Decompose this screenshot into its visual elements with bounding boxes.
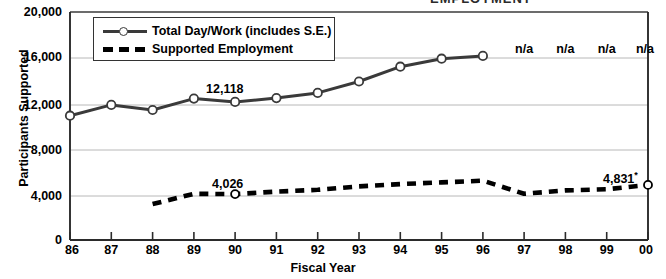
x-tick-91: 91 bbox=[261, 244, 291, 257]
x-tick-96: 96 bbox=[468, 244, 498, 257]
na-label-98: n/a bbox=[548, 42, 582, 56]
annotation-se-1990: 4,026 bbox=[212, 177, 243, 191]
legend-item-supported-employment: Supported Employment bbox=[101, 40, 328, 58]
legend-key-solid-line-icon bbox=[101, 24, 149, 38]
x-tick-87: 87 bbox=[96, 244, 126, 257]
x-tick-89: 89 bbox=[179, 244, 209, 257]
series-line bbox=[70, 56, 483, 116]
data-point-marker bbox=[190, 94, 198, 102]
x-tick-92: 92 bbox=[303, 244, 333, 257]
data-point-marker bbox=[355, 77, 363, 85]
data-point-marker bbox=[148, 106, 156, 114]
annotation-total-1990: 12,118 bbox=[206, 82, 244, 96]
legend-key-dashed-line-icon bbox=[101, 42, 149, 56]
x-tick-95: 95 bbox=[427, 244, 457, 257]
x-tick-00: 00 bbox=[631, 244, 661, 257]
x-tick-99: 99 bbox=[592, 244, 622, 257]
x-axis-title-wrap: Fiscal Year bbox=[0, 261, 666, 275]
x-axis-tick-labels: 86 87 88 89 90 91 92 93 94 95 96 97 98 9… bbox=[0, 244, 666, 262]
data-point-marker bbox=[644, 181, 652, 189]
annotation-se-2000-asterisk: * bbox=[634, 170, 638, 180]
x-tick-97: 97 bbox=[509, 244, 539, 257]
data-point-marker bbox=[272, 94, 280, 102]
na-label-00: n/a bbox=[628, 42, 662, 56]
data-point-marker bbox=[437, 55, 445, 63]
x-tick-93: 93 bbox=[344, 244, 374, 257]
na-label-97: n/a bbox=[507, 42, 541, 56]
data-series-layer bbox=[66, 52, 652, 204]
annotation-se-2000-value: 4,831 bbox=[603, 172, 634, 186]
legend-label-supported: Supported Employment bbox=[152, 42, 293, 56]
x-tick-90: 90 bbox=[220, 244, 250, 257]
data-point-marker bbox=[396, 62, 404, 70]
x-tick-86: 86 bbox=[57, 244, 87, 257]
na-label-99: n/a bbox=[590, 42, 624, 56]
x-axis-title: Fiscal Year bbox=[290, 261, 355, 275]
data-point-marker bbox=[479, 52, 487, 60]
x-tick-88: 88 bbox=[138, 244, 168, 257]
x-axis-ticks bbox=[70, 232, 648, 240]
data-point-marker bbox=[314, 89, 322, 97]
data-point-marker bbox=[107, 101, 115, 109]
chart-root: EMPLOYMENT Participants Supported 0 4,00… bbox=[0, 0, 666, 279]
x-tick-94: 94 bbox=[385, 244, 415, 257]
chart-legend: Total Day/Work (includes S.E.) Supported… bbox=[93, 17, 335, 61]
legend-label-total: Total Day/Work (includes S.E.) bbox=[152, 24, 331, 38]
data-point-marker bbox=[66, 112, 74, 120]
annotation-se-2000: 4,831* bbox=[603, 170, 638, 186]
x-tick-98: 98 bbox=[550, 244, 580, 257]
data-point-marker bbox=[231, 190, 239, 198]
legend-item-total-day-work: Total Day/Work (includes S.E.) bbox=[101, 22, 328, 40]
data-point-marker bbox=[231, 98, 239, 106]
